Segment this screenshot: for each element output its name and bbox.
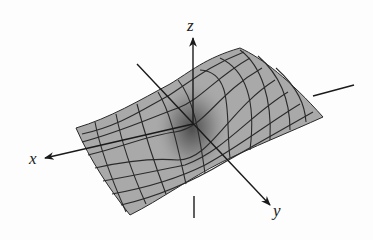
y-axis-label: y [273, 202, 281, 219]
surface [76, 48, 323, 215]
x-axis-label: x [29, 150, 37, 167]
surface-figure: z x y [0, 0, 373, 240]
surface-plot [0, 0, 373, 240]
z-axis-label: z [187, 17, 194, 34]
x-axis-far-segment [313, 85, 354, 96]
